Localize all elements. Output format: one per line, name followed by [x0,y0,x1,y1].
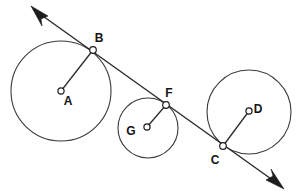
radius-ab [61,50,93,91]
tangent-point-marker-f [163,102,170,109]
figure-canvas: A B C D F G [0,0,297,196]
tangent-point-marker-b [90,47,97,54]
center-marker-d [246,108,252,114]
label-d: D [254,102,263,116]
label-b: B [95,31,104,45]
label-a: A [64,94,73,108]
geometry-figure: A B C D F G [0,0,297,196]
label-g: G [126,124,135,138]
radius-dc [223,111,249,146]
center-marker-g [144,124,150,130]
arrowhead-upper-left-icon [31,6,48,26]
arrowhead-lower-right-icon [266,169,284,189]
label-f: F [165,86,172,100]
tangent-point-marker-c [220,143,227,150]
label-c: C [211,153,220,167]
radius-gf [147,105,166,127]
